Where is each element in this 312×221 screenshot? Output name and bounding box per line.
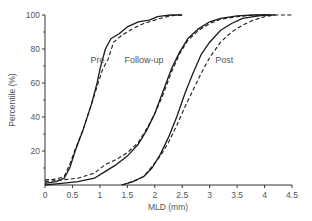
x-tick-label: 2.5: [176, 190, 188, 200]
group-labels: PreFollow-upPost: [91, 55, 234, 65]
series-follow-up-dashed: [45, 15, 270, 182]
series-layer: [45, 15, 292, 185]
label-follow-up: Follow-up: [125, 55, 164, 65]
x-tick-label: 4: [262, 190, 267, 200]
x-tick-label: 3.5: [231, 190, 243, 200]
series-post-solid: [122, 15, 276, 185]
x-tick-label: 2: [152, 190, 157, 200]
label-pre: Pre: [91, 55, 105, 65]
x-tick-label: 0.5: [67, 190, 79, 200]
series-pre-dashed: [45, 15, 182, 180]
x-tick-label: 1.5: [121, 190, 133, 200]
label-post: Post: [215, 55, 234, 65]
cdf-chart: 20406080100 00.511.522.533.544.5 PreFoll…: [0, 0, 312, 221]
y-tick-label: 100: [26, 10, 40, 20]
x-tick-label: 1: [98, 190, 103, 200]
x-ticks: 00.511.522.533.544.5: [43, 185, 299, 200]
y-axis-title: Percentile (%): [7, 73, 17, 127]
x-axis-title: MLD (mm): [148, 202, 188, 212]
x-tick-label: 0: [43, 190, 48, 200]
series-post-dashed: [122, 15, 292, 185]
y-tick-label: 20: [31, 146, 41, 156]
y-tick-label: 80: [31, 44, 41, 54]
y-tick-label: 60: [31, 78, 41, 88]
y-tick-label: 40: [31, 112, 41, 122]
y-ticks: 20406080100: [26, 10, 45, 168]
x-tick-label: 4.5: [286, 190, 298, 200]
axes: 20406080100 00.511.522.533.544.5: [26, 10, 298, 200]
x-tick-label: 3: [207, 190, 212, 200]
